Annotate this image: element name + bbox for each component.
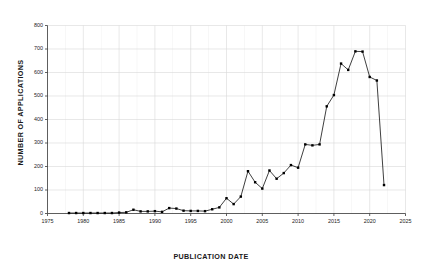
- data-point-marker: [361, 50, 363, 52]
- y-tick-label: 200: [34, 163, 43, 169]
- data-point-marker: [275, 178, 277, 180]
- x-tick-label: 2020: [364, 218, 376, 224]
- data-point-marker: [125, 211, 127, 213]
- data-point-marker: [139, 210, 141, 212]
- data-point-marker: [254, 181, 256, 183]
- data-point-marker: [340, 62, 342, 64]
- data-point-marker: [240, 195, 242, 197]
- data-point-marker: [261, 187, 263, 189]
- x-tick-label: 2000: [221, 218, 233, 224]
- data-point-marker: [118, 211, 120, 213]
- x-tick-label: 2010: [292, 218, 304, 224]
- y-tick-label: 800: [34, 22, 43, 28]
- y-tick-label: 100: [34, 186, 43, 192]
- data-point-marker: [82, 212, 84, 214]
- data-point-marker: [175, 207, 177, 209]
- data-point-marker: [147, 210, 149, 212]
- data-point-marker: [211, 208, 213, 210]
- x-tick-label: 2025: [400, 218, 412, 224]
- data-point-marker: [311, 144, 313, 146]
- x-tick-label: 2005: [256, 218, 268, 224]
- y-tick-label: 600: [34, 69, 43, 75]
- y-tick-label: 500: [34, 92, 43, 98]
- data-point-marker: [89, 212, 91, 214]
- data-point-marker: [168, 207, 170, 209]
- y-tick-label: 0: [40, 210, 43, 216]
- x-tick-label: 2015: [328, 218, 340, 224]
- data-point-marker: [376, 79, 378, 81]
- data-point-marker: [290, 164, 292, 166]
- data-point-marker: [304, 143, 306, 145]
- data-point-marker: [182, 209, 184, 211]
- chart-container: NUMBER OF APPLICATIONS PUBLICATION DATE …: [0, 0, 422, 267]
- data-point-marker: [111, 212, 113, 214]
- data-point-marker: [283, 172, 285, 174]
- x-tick-label: 1985: [113, 218, 125, 224]
- data-point-marker: [104, 212, 106, 214]
- data-point-marker: [247, 170, 249, 172]
- data-point-marker: [347, 69, 349, 71]
- data-point-marker: [161, 211, 163, 213]
- data-point-marker: [204, 210, 206, 212]
- line-chart-plot: 0100200300400500600700800197519801985199…: [0, 0, 422, 267]
- data-point-marker: [232, 203, 234, 205]
- data-point-marker: [197, 210, 199, 212]
- data-point-marker: [132, 209, 134, 211]
- x-tick-label: 1990: [149, 218, 161, 224]
- data-point-marker: [218, 206, 220, 208]
- y-tick-label: 400: [34, 116, 43, 122]
- data-point-marker: [68, 212, 70, 214]
- x-tick-label: 1995: [185, 218, 197, 224]
- y-tick-label: 300: [34, 139, 43, 145]
- y-tick-label: 700: [34, 45, 43, 51]
- data-point-marker: [354, 50, 356, 52]
- data-point-marker: [297, 166, 299, 168]
- data-point-marker: [369, 76, 371, 78]
- data-point-marker: [225, 197, 227, 199]
- data-point-marker: [75, 212, 77, 214]
- data-point-marker: [96, 212, 98, 214]
- data-point-marker: [318, 143, 320, 145]
- x-tick-label: 1975: [42, 218, 54, 224]
- data-point-marker: [383, 184, 385, 186]
- data-point-marker: [190, 210, 192, 212]
- data-point-marker: [154, 210, 156, 212]
- data-point-marker: [333, 94, 335, 96]
- data-point-marker: [268, 169, 270, 171]
- data-point-marker: [326, 105, 328, 107]
- x-tick-label: 1980: [77, 218, 89, 224]
